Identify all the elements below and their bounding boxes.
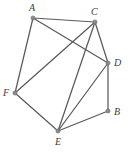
graph-vertex-c: [93, 20, 97, 24]
vertex-label-e: E: [55, 137, 61, 147]
vertex-label-c: C: [91, 7, 98, 17]
graph-vertex-a: [31, 16, 35, 20]
vertex-label-d: D: [114, 58, 121, 68]
graph-vertex-b: [106, 109, 110, 113]
graph-vertex-e: [56, 129, 60, 133]
graph-edge: [33, 18, 108, 63]
graph-vertex-f: [13, 91, 17, 95]
vertex-label-a: A: [29, 3, 35, 13]
graph-edge: [15, 93, 58, 131]
edges-group: [15, 18, 108, 131]
vertex-label-f: F: [3, 88, 9, 98]
graph-edge: [15, 18, 33, 93]
vertex-label-b: B: [114, 107, 120, 117]
graph-edge: [33, 18, 95, 22]
graph-canvas: [0, 0, 132, 154]
graph-diagram: ACDBEF: [0, 0, 132, 154]
graph-vertex-d: [106, 61, 110, 65]
